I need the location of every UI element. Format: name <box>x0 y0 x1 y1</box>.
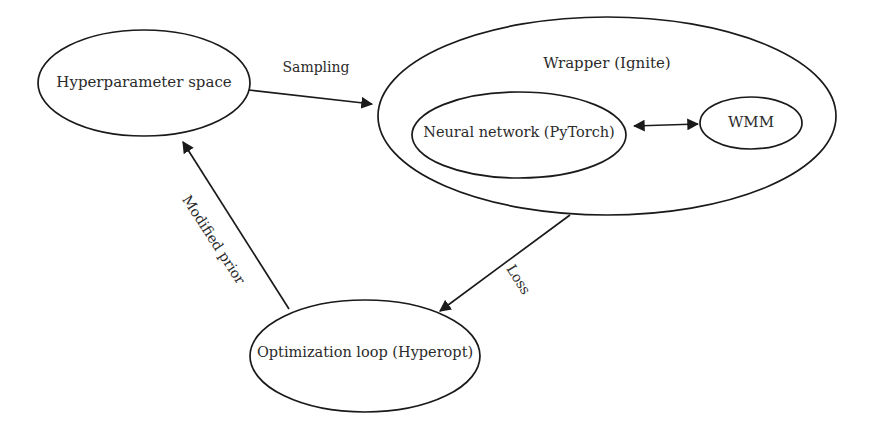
modified-prior-edge-label: Modified prior <box>179 192 248 287</box>
optimization-loop-hyperopt-label: Optimization loop (Hyperopt) <box>257 344 473 360</box>
node-wmm[interactable]: WMM <box>700 97 802 149</box>
neural-network-pytorch-label: Neural network (PyTorch) <box>423 124 615 140</box>
loss-edge-label: Loss <box>504 262 535 298</box>
hyperparameter-space-label: Hyperparameter space <box>56 73 231 91</box>
sampling-arrow <box>249 90 372 104</box>
node-optimization-loop-hyperopt[interactable]: Optimization loop (Hyperopt) <box>250 300 480 412</box>
wmm-label: WMM <box>728 113 774 131</box>
node-neural-network-pytorch[interactable]: Neural network (PyTorch) <box>412 92 626 178</box>
diagram-canvas: Wrapper (Ignite) Neural network (PyTorch… <box>0 0 874 440</box>
neural-network-wmm-arrow <box>634 124 698 126</box>
loss-arrow <box>440 215 570 311</box>
nodes-group: Wrapper (Ignite) Neural network (PyTorch… <box>38 17 836 412</box>
diagram-svg: Wrapper (Ignite) Neural network (PyTorch… <box>0 0 874 440</box>
wrapper-ignite-label: Wrapper (Ignite) <box>543 54 670 72</box>
node-hyperparameter-space[interactable]: Hyperparameter space <box>38 30 250 136</box>
sampling-edge-label: Sampling <box>282 59 349 75</box>
